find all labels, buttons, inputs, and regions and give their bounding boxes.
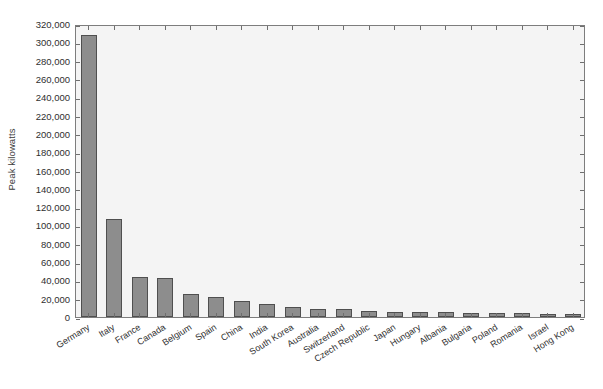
y-axis-tick-mark: [76, 117, 80, 118]
x-axis-tick-label: South Korea: [247, 322, 295, 357]
x-axis-tick-mark-top: [165, 26, 166, 30]
y-axis-tick-mark: [76, 209, 80, 210]
x-axis-tick-label-text: Hong Kong: [532, 322, 576, 354]
y-axis-tick-mark: [76, 172, 80, 173]
x-axis-tick-mark-top: [573, 26, 574, 30]
x-axis-tick-mark: [420, 313, 421, 317]
y-axis-tick-mark-right: [580, 172, 584, 173]
x-axis-tick-mark-top: [292, 26, 293, 30]
x-axis-tick-label-text: Australia: [286, 322, 321, 349]
y-axis-tick-mark: [76, 99, 80, 100]
x-axis-tick-mark: [343, 313, 344, 317]
x-axis-tick-mark: [522, 313, 523, 317]
x-axis-tick-label: Australia: [286, 322, 321, 349]
x-axis-tick-label: Israel: [526, 322, 550, 342]
x-axis-tick-label: Hong Kong: [532, 322, 576, 354]
x-axis-tick-mark: [114, 313, 115, 317]
x-axis-tick-mark-top: [139, 26, 140, 30]
x-axis-tick-label: Japan: [371, 322, 397, 343]
x-axis-tick-label: Italy: [97, 322, 116, 339]
x-axis-tick-label-text: Japan: [371, 322, 397, 343]
x-axis-tick-mark-top: [420, 26, 421, 30]
y-axis-tick-mark: [76, 44, 80, 45]
x-axis-tick-mark-top: [522, 26, 523, 30]
y-axis-tick-mark-right: [580, 99, 584, 100]
x-axis-tick-label-text: Poland: [470, 322, 499, 345]
x-axis-tick-label-text: Spain: [194, 322, 219, 343]
y-axis-title: Peak kilowatts: [2, 0, 20, 318]
x-axis-tick-label: China: [219, 322, 244, 343]
chart-figure: Peak kilowatts 020,00040,00060,00080,000…: [0, 0, 603, 389]
y-axis-tick-mark: [76, 264, 80, 265]
x-axis-tick-label: Bulgaria: [440, 322, 473, 348]
x-axis-tick-mark: [165, 313, 166, 317]
x-axis-tick-label-text: Israel: [526, 322, 550, 342]
y-axis-tick-mark-right: [580, 117, 584, 118]
y-axis-tick-mark: [76, 190, 80, 191]
y-axis-tick-mark-right: [580, 264, 584, 265]
x-axis-tick-mark-top: [88, 26, 89, 30]
x-axis-tick-mark-top: [343, 26, 344, 30]
y-axis-tick-mark: [76, 135, 80, 136]
x-axis-tick-label-text: Switzerland: [301, 322, 346, 355]
x-axis-tick-label: Germany: [54, 322, 91, 350]
x-axis-tick-mark: [318, 313, 319, 317]
y-axis-tick-mark-right: [580, 300, 584, 301]
y-axis-tick-mark-right: [580, 26, 584, 27]
y-axis-tick-mark: [76, 26, 80, 27]
x-axis-tick-mark: [139, 313, 140, 317]
x-axis-tick-label: Spain: [194, 322, 219, 343]
x-axis-tick-label: Hungary: [388, 322, 422, 349]
x-axis-tick-mark-top: [216, 26, 217, 30]
x-axis-tick-mark-top: [190, 26, 191, 30]
x-axis-tick-mark: [547, 313, 548, 317]
x-axis-tick-mark: [394, 313, 395, 317]
x-axis-tick-mark-top: [267, 26, 268, 30]
x-axis-tick-mark-top: [496, 26, 497, 30]
x-axis-tick-label-text: China: [219, 322, 244, 343]
x-axis-tick-mark-top: [394, 26, 395, 30]
y-axis-tick-mark-right: [580, 44, 584, 45]
bar: [157, 278, 173, 317]
y-axis-tick-mark-right: [580, 154, 584, 155]
y-axis-tick-mark: [76, 80, 80, 81]
y-axis-tick-mark-right: [580, 209, 584, 210]
y-axis-tick-mark-right: [580, 319, 584, 320]
x-axis-tick-mark-top: [547, 26, 548, 30]
x-axis-tick-mark-top: [445, 26, 446, 30]
x-axis-tick-label: Romania: [489, 322, 525, 350]
x-axis-tick-label-text: Czech Republic: [313, 322, 372, 364]
x-axis-tick-label-text: India: [248, 322, 270, 341]
x-axis-tick-mark: [369, 313, 370, 317]
x-axis-tick-label-text: France: [113, 322, 142, 345]
bar: [132, 277, 148, 317]
x-axis-tick-mark-top: [471, 26, 472, 30]
y-axis-tick-mark-right: [580, 62, 584, 63]
x-axis-tick-label: Albania: [417, 322, 448, 346]
bar: [81, 35, 97, 317]
x-axis-tick-label-text: Belgium: [160, 322, 193, 348]
x-axis-tick-mark: [292, 313, 293, 317]
y-axis-tick-mark-right: [580, 227, 584, 228]
x-axis-tick-mark: [496, 313, 497, 317]
y-axis-tick-mark: [76, 227, 80, 228]
x-axis-tick-label: India: [248, 322, 270, 341]
x-axis-tick-label-text: Italy: [97, 322, 116, 339]
x-axis-tick-mark-top: [318, 26, 319, 30]
x-axis-tick-label: Poland: [470, 322, 499, 345]
x-axis-tick-label: France: [113, 322, 142, 345]
y-axis-tick-mark: [76, 154, 80, 155]
y-axis-tick-mark-right: [580, 135, 584, 136]
x-axis-tick-label: Belgium: [160, 322, 193, 348]
y-axis-tick-mark: [76, 245, 80, 246]
plot-inner: [76, 26, 584, 317]
plot-area: [75, 25, 585, 318]
x-axis-tick-label: Switzerland: [301, 322, 346, 355]
x-axis-tick-mark: [267, 313, 268, 317]
y-axis-tick-mark-right: [580, 80, 584, 81]
y-axis-tick-mark-right: [580, 190, 584, 191]
x-axis-tick-mark: [88, 313, 89, 317]
x-axis-tick-label-text: Germany: [54, 322, 91, 350]
y-axis-title-text: Peak kilowatts: [6, 128, 17, 190]
y-axis-tick-mark: [76, 62, 80, 63]
